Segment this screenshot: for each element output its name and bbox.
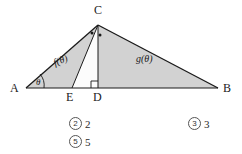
answer-choice-3[interactable]: 3 3 [188, 117, 210, 130]
vertex-label-D: D [93, 90, 102, 104]
equal-angle-dot-ECD [99, 34, 102, 37]
vertex-label-E: E [66, 90, 73, 104]
choice-number-5: 5 [69, 135, 82, 148]
equal-angle-dot-ACE [91, 32, 94, 35]
vertex-label-A: A [10, 81, 19, 95]
region-label-g-theta: g(θ) [136, 53, 153, 65]
answer-choice-5[interactable]: 5 5 [69, 135, 91, 148]
geometry-figure-container: A B C D E f(θ) g(θ) θ 2 2 3 3 5 5 [0, 0, 242, 154]
choice-value-3: 3 [204, 118, 210, 130]
choice-number-2: 2 [69, 117, 82, 130]
vertex-label-C: C [94, 3, 102, 17]
choice-number-3: 3 [188, 117, 201, 130]
answer-choice-2[interactable]: 2 2 [69, 117, 91, 130]
choice-value-5: 5 [85, 136, 91, 148]
vertex-label-B: B [223, 81, 231, 95]
angle-label-theta: θ [36, 77, 41, 87]
choice-value-2: 2 [85, 118, 91, 130]
geometry-diagram: A B C D E f(θ) g(θ) θ [0, 0, 242, 154]
